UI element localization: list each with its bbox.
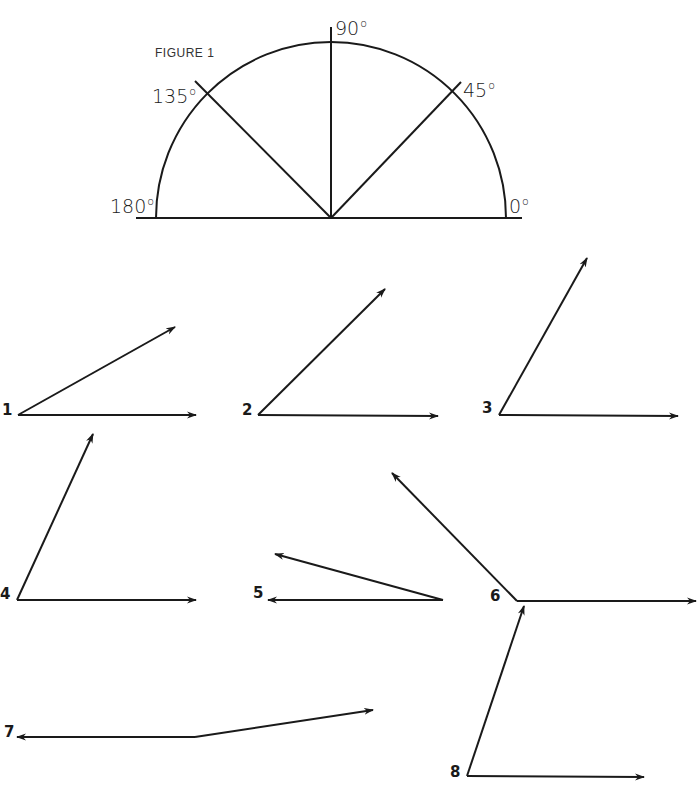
angle-5 — [268, 554, 443, 600]
ray-135 — [195, 81, 331, 218]
degree-label-90: 90o — [335, 18, 367, 38]
degree-label-0: 0o — [509, 196, 529, 216]
angle-2 — [258, 289, 438, 416]
angle-7 — [17, 710, 373, 737]
angle-1 — [18, 327, 196, 415]
angle-4 — [17, 434, 196, 600]
angle-label-7: 7 — [4, 725, 14, 740]
degree-label-180: 180o — [110, 196, 154, 216]
angle-label-8: 8 — [450, 765, 460, 780]
diagram-canvas — [0, 0, 700, 788]
angle-label-6: 6 — [490, 589, 500, 604]
angle-label-2: 2 — [242, 403, 252, 418]
angle-label-5: 5 — [253, 586, 263, 601]
angle-3 — [499, 258, 678, 416]
angle-label-3: 3 — [482, 401, 492, 416]
degree-label-135: 135o — [152, 86, 196, 106]
degree-label-45: 45o — [463, 80, 495, 100]
figure-title: FIGURE 1 — [155, 47, 214, 59]
angle-label-4: 4 — [0, 587, 10, 602]
angle-label-1: 1 — [2, 403, 12, 418]
angle-8 — [467, 606, 644, 777]
ray-45 — [331, 82, 461, 218]
angle-6 — [392, 473, 696, 601]
